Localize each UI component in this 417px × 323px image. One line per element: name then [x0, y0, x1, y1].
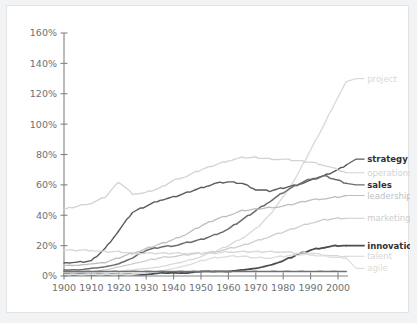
x-tick-label: 1940	[162, 282, 186, 293]
series-label-talent: talent	[367, 251, 393, 261]
y-tick-label: 20%	[36, 240, 57, 251]
series-label-agile: agile	[367, 263, 388, 273]
y-tick-label: 40%	[36, 210, 57, 221]
y-tick-label: 80%	[36, 149, 57, 160]
series-line-project	[64, 82, 346, 273]
series-label-operations: operations	[367, 168, 410, 178]
series-label-leadership: leadership	[367, 191, 410, 201]
y-tick-label: 160%	[30, 27, 57, 38]
series-labels: projectstrategyoperationssalesleadership…	[367, 74, 410, 274]
x-tick-label: 1980	[271, 282, 295, 293]
series-leader-agile	[346, 258, 364, 269]
series-line-strategy	[64, 165, 346, 263]
series-leader-sales	[346, 183, 364, 185]
series-label-strategy: strategy	[367, 154, 408, 164]
x-axis: 1900191019201930194019501960197019801990…	[52, 273, 350, 294]
x-tick-label: 1920	[107, 282, 131, 293]
x-tick-label: 1930	[134, 282, 158, 293]
series-leader-strategy	[346, 159, 364, 165]
x-tick-label: 1910	[79, 282, 103, 293]
y-tick-label: 60%	[36, 179, 57, 190]
series-line-sales	[64, 175, 346, 270]
series-label-project: project	[367, 74, 397, 84]
y-tick-label: 0%	[42, 270, 57, 281]
series-label-sales: sales	[367, 180, 392, 190]
series-label-innovation: innovation	[367, 241, 410, 251]
y-tick-label: 120%	[30, 88, 57, 99]
series-label-marketing: marketing	[367, 213, 410, 223]
x-tick-label: 1900	[52, 282, 76, 293]
series-leader-project	[346, 79, 364, 82]
y-tick-label: 100%	[30, 119, 57, 130]
x-tick-label: 1970	[244, 282, 268, 293]
y-axis: 0%20%40%60%80%100%120%140%160%	[30, 27, 68, 281]
series-line-talent	[64, 250, 346, 257]
line-chart: 0%20%40%60%80%100%120%140%160% 190019101…	[7, 6, 410, 312]
x-tick-label: 1990	[299, 282, 323, 293]
chart-card: 0%20%40%60%80%100%120%140%160% 190019101…	[6, 5, 409, 313]
y-tick-label: 140%	[30, 58, 57, 69]
x-tick-label: 1950	[189, 282, 213, 293]
series-lines	[64, 79, 364, 275]
x-tick-label: 2000	[326, 282, 350, 293]
x-tick-label: 1960	[216, 282, 240, 293]
